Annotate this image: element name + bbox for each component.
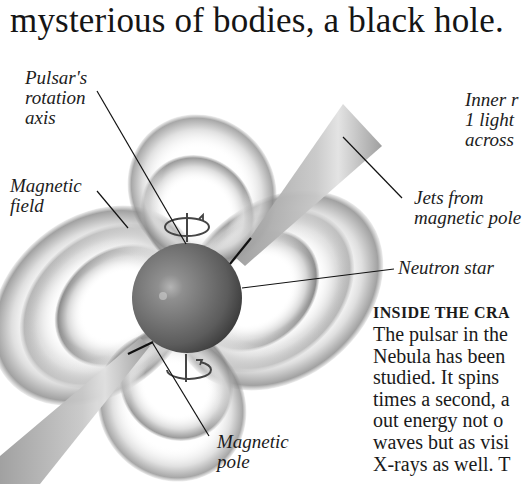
caption-line: X-rays as well. T [373,454,525,476]
label-line: Magnetic [10,176,82,196]
neutron-star-sphere [132,243,242,353]
label-line: pole [217,452,289,472]
label-magnetic-pole: Magnetic pole [217,432,289,472]
label-line: magnetic pole [414,208,521,228]
label-line: 1 light [465,110,518,130]
caption-line: Nebula has been [373,346,525,368]
label-rotation-axis: Pulsar's rotation axis [25,68,87,128]
caption-heading: INSIDE THE CRA [373,304,525,322]
caption-block: INSIDE THE CRA The pulsar in the Nebula … [373,304,525,475]
caption-line: out energy not o [373,410,525,432]
label-line: across [465,130,518,150]
caption-line: studied. It spins [373,367,525,389]
label-line: Jets from [414,188,521,208]
label-line: Magnetic [217,432,289,452]
label-inner-region: Inner r 1 light across [465,90,518,150]
label-line: Pulsar's [25,68,87,88]
label-magnetic-field: Magnetic field [10,176,82,216]
caption-line: waves but as visi [373,432,525,454]
label-line: Inner r [465,90,518,110]
label-line: Neutron star [398,258,494,278]
label-jets: Jets from magnetic pole [414,188,521,228]
label-line: field [10,196,82,216]
label-neutron-star: Neutron star [398,258,494,278]
label-line: rotation [25,88,87,108]
label-line: axis [25,108,87,128]
caption-line: The pulsar in the [373,324,525,346]
caption-line: times a second, a [373,389,525,411]
